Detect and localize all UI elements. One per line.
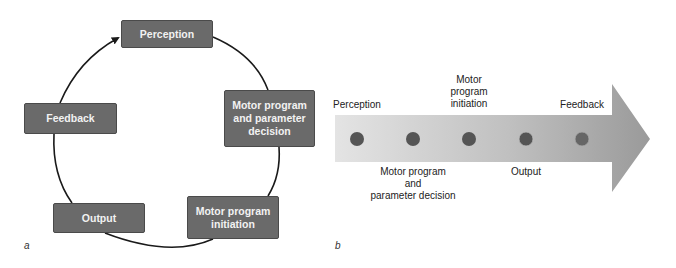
dot-feedback [575,132,589,146]
node-perception: Perception [121,20,213,48]
dot-motor-program-decision [406,132,420,146]
stage-label-motor-program-initiation: Motor program initiation [450,74,487,110]
dot-perception [350,132,364,146]
panel-a-label: a [24,240,30,251]
dot-output [519,132,533,146]
node-feedback: Feedback [24,103,117,134]
panel-b-label: b [335,240,341,251]
linear-flow-panel: Perception Motor program and parameter d… [330,0,676,268]
flow-arrow [330,0,676,268]
cycle-diagram-panel: Perception Motor program and parameter d… [0,0,330,268]
node-motor-program-decision: Motor program and parameter decision [224,90,315,147]
stage-label-feedback: Feedback [560,99,604,111]
stage-label-perception: Perception [333,99,381,111]
node-motor-program-initiation: Motor program initiation [187,196,279,239]
dot-motor-program-initiation [462,132,476,146]
stage-label-motor-program-decision: Motor program and parameter decision [370,166,455,202]
node-output: Output [53,203,145,233]
stage-label-output: Output [511,166,541,178]
